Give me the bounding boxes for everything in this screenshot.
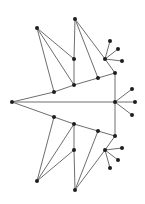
graph-edge: [75, 131, 98, 190]
graph-node: [10, 100, 14, 104]
graph-node: [120, 146, 124, 150]
graph-edge: [105, 136, 115, 150]
graph-node: [108, 166, 112, 170]
graph-edge: [37, 124, 74, 181]
graph-edge: [37, 150, 74, 181]
graph-node: [130, 113, 134, 117]
graph-node: [96, 129, 100, 133]
graph-edge: [12, 92, 54, 102]
graph-node: [133, 100, 137, 104]
graph-node: [52, 115, 56, 119]
graph-node: [116, 47, 120, 51]
graph-edge: [54, 117, 74, 124]
graph-edge: [105, 59, 115, 73]
graph-node: [72, 83, 76, 87]
edge-layer: [12, 19, 135, 190]
graph-edge: [12, 102, 54, 117]
graph-node: [73, 188, 77, 192]
graph-node: [120, 59, 124, 63]
graph-edge: [37, 28, 54, 92]
graph-edge: [37, 117, 54, 181]
graph-node: [116, 158, 120, 162]
graph-node: [113, 100, 117, 104]
graph-edge: [74, 150, 75, 190]
graph-diagram: [0, 0, 145, 204]
graph-node: [72, 148, 76, 152]
graph-edge: [54, 85, 74, 92]
graph-node: [72, 122, 76, 126]
graph-edge: [74, 124, 98, 131]
graph-edge: [75, 19, 105, 59]
graph-node: [103, 148, 107, 152]
graph-edge: [115, 89, 132, 102]
graph-node: [35, 179, 39, 183]
graph-edge: [98, 73, 115, 78]
graph-node: [130, 87, 134, 91]
graph-edge: [37, 28, 74, 85]
graph-node: [73, 17, 77, 21]
graph-edge: [105, 148, 122, 150]
graph-node: [113, 134, 117, 138]
graph-edge: [74, 19, 75, 59]
graph-edge: [75, 19, 98, 78]
graph-edge: [115, 102, 132, 115]
graph-edge: [105, 59, 122, 61]
graph-node: [35, 26, 39, 30]
graph-node: [108, 39, 112, 43]
graph-node: [113, 71, 117, 75]
graph-node: [103, 57, 107, 61]
graph-node: [52, 90, 56, 94]
graph-edge: [98, 131, 115, 136]
graph-edge: [75, 150, 105, 190]
graph-edge: [37, 28, 74, 59]
graph-node: [72, 57, 76, 61]
graph-node: [96, 76, 100, 80]
graph-edge: [74, 78, 98, 85]
